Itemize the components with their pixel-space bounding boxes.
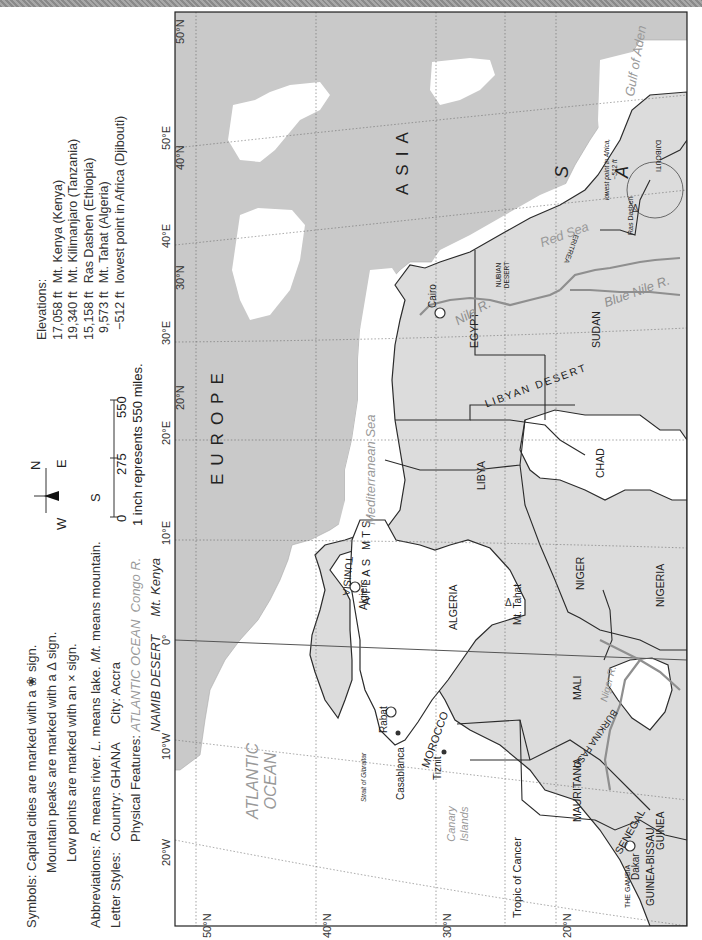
label-guinea: GUINEA [655, 812, 666, 850]
label-algeria: ALGERIA [447, 584, 459, 630]
compass-s: S [88, 493, 103, 502]
lat-label-bottom-30: 30°N [437, 913, 455, 938]
label-lowest-point-note: lowest point in Africa,−512 ft [603, 139, 619, 200]
label-cairo: Cairo [427, 284, 438, 308]
elevations-title: Elevations: [35, 112, 51, 340]
label-ras-dashen: Ras Dashen [627, 196, 634, 235]
elevation-row: 17,058 ftMt. Kenya (Kenya) [51, 112, 67, 340]
label-chad: CHAD [594, 448, 606, 478]
label-arabia-s: S [552, 166, 573, 178]
label-mediterranean-sea: Mediterranean Sea [363, 414, 378, 525]
label-tiznit: Tiznit [432, 756, 443, 780]
compass-w: W [54, 518, 69, 530]
label-canary-islands: Canary Islands [445, 803, 471, 845]
label-algiers: Algiers [358, 579, 369, 610]
legend-block: Symbols: Capital cities are marked with … [22, 541, 166, 928]
elevation-row: 19,340 ftMt. Kilimanjaro (Tanzania) [66, 112, 82, 340]
label-tropic-of-cancer: Tropic of Cancer [511, 837, 523, 918]
label-europe: EUROPE [208, 365, 228, 485]
scale-tick-0: 0 [114, 515, 129, 522]
lat-label-top-30: 30°N [170, 265, 188, 290]
label-libya: LIBYA [475, 461, 487, 490]
lon-label-40e: 40°E [156, 224, 174, 248]
lon-label-30e: 30°E [156, 321, 174, 345]
legend-abbreviations-row: Abbreviations: R. means river. L. means … [86, 541, 106, 928]
label-mali: MALI [571, 675, 583, 700]
label-nubian-desert: NUBIAN DESERT [495, 260, 511, 290]
lat-label-bottom-50: 50°N [197, 913, 215, 938]
scale-tick-550: 550 [114, 396, 129, 418]
legend-symbols-row: Symbols: Capital cities are marked with … [22, 541, 42, 928]
lat-label-bottom-40: 40°N [317, 913, 335, 938]
legend-symbol-peak-row: Mountain peaks are marked with a Δ sign. [42, 541, 62, 928]
label-rabat: Rabat [378, 706, 389, 733]
legend-physical-row-2: NAMIB DESERT Mt. Kenya [146, 541, 166, 928]
mountain-peak-icon: Δ [505, 597, 512, 608]
label-niger: NIGER [574, 557, 586, 590]
label-sudan: SUDAN [590, 311, 602, 348]
lon-label-20e: 20°E [156, 421, 174, 445]
city-dot-icon [442, 750, 447, 755]
elevation-row: −512 ftlowest point in Africa (Djibouti) [113, 112, 129, 340]
legend-symbols-label: Symbols: [24, 875, 39, 928]
capital-star-icon [435, 308, 445, 318]
legend-symbol-low-row: Low points are marked with an × sign. [62, 541, 82, 928]
label-djibouti: DJIBOUTI [655, 140, 662, 172]
label-strait-of-gibraltar: Strait of Gibraltar [360, 753, 367, 802]
label-casablanca: Casablanca [395, 747, 406, 800]
elevations-block: Elevations: 17,058 ftMt. Kenya (Kenya) 1… [35, 112, 128, 340]
label-asia: ASIA [393, 124, 413, 195]
label-mt-tahat: Mt. Tahat [512, 584, 523, 625]
elevation-row: 15,158 ftRas Dashen (Ethiopia) [82, 112, 98, 340]
lat-label-bottom-20: 20°N [557, 913, 575, 938]
label-atlantic-ocean: ATLANTIC OCEAN [244, 736, 280, 826]
legend-physical-row: Physical Features: ATLANTIC OCEAN Congo … [126, 541, 146, 928]
label-guinea-bissau: GUINEA-BISSAU [645, 828, 656, 906]
city-dot-icon [396, 731, 401, 736]
lon-label-50e: 50°E [156, 126, 174, 150]
label-dakar: Dakar [630, 853, 641, 880]
scale-caption: 1 inch represents 550 miles. [130, 363, 145, 526]
legend-letter-styles-row: Letter Styles: Country: GHANA City: Accr… [106, 541, 126, 928]
lat-label-top-50: 50°N [170, 19, 188, 44]
compass-n: N [28, 461, 43, 470]
label-nigeria: NIGERIA [654, 564, 666, 607]
elevation-row: 9,573 ftMt. Tahat (Algeria) [97, 112, 113, 340]
elevations-table: 17,058 ftMt. Kenya (Kenya) 19,340 ftMt. … [51, 112, 129, 340]
lat-label-top-20: 20°N [170, 385, 188, 410]
legend-symbol-capital: Capital cities are marked with a ❀ sign. [24, 645, 39, 871]
scale-tick-275: 275 [114, 453, 129, 475]
compass-e: E [54, 459, 69, 468]
